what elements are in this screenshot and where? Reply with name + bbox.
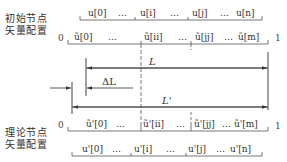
ellipsis: …	[220, 8, 229, 18]
end-label-top: 1	[275, 33, 281, 43]
dimension-L: L	[149, 56, 156, 67]
u-prime-cell-j: u'[j]	[188, 144, 206, 154]
ellipsis: …	[178, 32, 187, 42]
u-tilde-cell-0: ũ[0]	[74, 32, 93, 42]
ellipsis: …	[112, 144, 121, 154]
u-prime-cell-n: u'[n]	[230, 144, 251, 154]
ellipsis: …	[108, 32, 117, 42]
u-tilde-cell-m: ũ[m]	[238, 32, 259, 42]
ellipsis: …	[222, 119, 231, 129]
ellipsis: …	[170, 8, 179, 18]
u-tilde-prime-cell-m: ũ'[m]	[234, 119, 258, 129]
dimension-L-prime: L'	[162, 95, 171, 106]
ellipsis: …	[118, 8, 127, 18]
u-prime-cell-0: u'[0]	[82, 144, 103, 154]
end-label-bottom: 1	[275, 121, 281, 131]
dimension-delta-L: ΔL	[102, 76, 116, 87]
u-tilde-prime-cell-ii: ũ'[ii]	[143, 119, 164, 129]
u-prime-cell-i: u'[i]	[134, 144, 152, 154]
u-tilde-prime-cell-jj: ũ'[jj]	[194, 119, 215, 129]
u-cell-n: u[n]	[236, 8, 255, 18]
ellipsis: …	[216, 144, 225, 154]
ellipsis: …	[166, 144, 175, 154]
u-cell-i: u[i]	[140, 8, 156, 18]
u-cell-j: u[j]	[192, 8, 208, 18]
u-tilde-prime-cell-0: ũ'[0]	[86, 119, 107, 129]
ellipsis: …	[116, 119, 125, 129]
start-label-top: 0	[58, 33, 64, 43]
u-cell-0: u[0]	[88, 8, 107, 18]
ellipsis: …	[224, 32, 233, 42]
ellipsis: …	[176, 119, 185, 129]
u-tilde-cell-jj: ũ[jj]	[195, 32, 213, 42]
start-label-bottom: 0	[58, 120, 64, 130]
diagram-lines	[0, 0, 287, 162]
u-tilde-cell-ii: ũ[ii]	[144, 32, 163, 42]
